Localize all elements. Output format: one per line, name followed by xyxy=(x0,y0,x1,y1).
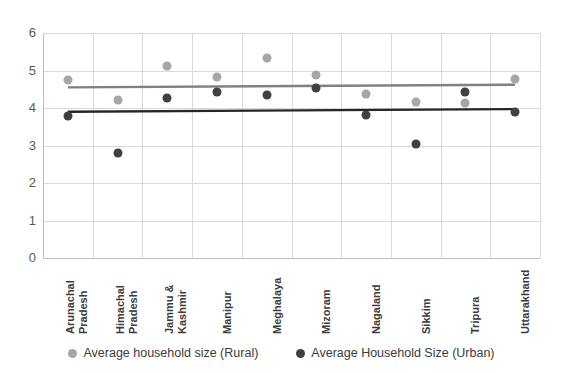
trendline xyxy=(68,85,515,88)
plot-area xyxy=(43,33,540,258)
data-point xyxy=(63,111,72,120)
x-tick-label: Mizoram xyxy=(320,289,333,334)
data-point xyxy=(511,108,520,117)
x-tick-label: Tripura xyxy=(469,297,482,334)
data-point xyxy=(262,54,271,63)
chart-legend: Average household size (Rural)Average Ho… xyxy=(0,346,563,360)
data-point xyxy=(411,140,420,149)
data-point xyxy=(461,99,470,108)
data-point xyxy=(163,93,172,102)
x-tick-label: Jammu & xyxy=(163,284,176,334)
data-point xyxy=(312,84,321,93)
x-tick-label: Himachal xyxy=(114,285,127,334)
legend-item[interactable]: Average household size (Rural) xyxy=(68,346,258,360)
x-tick-label: Meghalaya xyxy=(271,278,284,334)
data-point xyxy=(113,96,122,105)
legend-marker-icon xyxy=(296,349,305,358)
plot-right-border xyxy=(540,33,541,258)
x-tick-label: Sikkim xyxy=(420,299,433,334)
x-tick-label: Kashmir xyxy=(176,290,189,334)
data-point xyxy=(63,75,72,84)
legend-marker-icon xyxy=(68,349,77,358)
y-tick-label: 1 xyxy=(4,214,36,227)
x-tick-label: Arunachal xyxy=(64,280,77,334)
data-point xyxy=(163,62,172,71)
trendline xyxy=(68,109,515,112)
x-tick-label: Pradesh xyxy=(127,291,140,334)
y-tick-label: 5 xyxy=(4,64,36,77)
scatter-chart: 0123456 ArunachalPradeshHimachalPradeshJ… xyxy=(0,0,563,373)
x-axis-labels: ArunachalPradeshHimachalPradeshJammu &Ka… xyxy=(43,258,540,338)
data-point xyxy=(212,72,221,81)
trendlines xyxy=(43,33,540,258)
x-tick-label: Pradesh xyxy=(77,291,90,334)
data-point xyxy=(411,98,420,107)
legend-label: Average Household Size (Urban) xyxy=(311,346,494,360)
data-point xyxy=(511,75,520,84)
x-tick-label: Uttarakhand xyxy=(519,270,532,334)
data-point xyxy=(461,87,470,96)
x-tick-label: Manipur xyxy=(221,291,234,334)
y-tick-label: 6 xyxy=(4,26,36,39)
legend-item[interactable]: Average Household Size (Urban) xyxy=(296,346,494,360)
data-point xyxy=(362,110,371,119)
y-tick-label: 3 xyxy=(4,139,36,152)
y-axis: 0123456 xyxy=(0,0,36,373)
y-tick-label: 0 xyxy=(4,251,36,264)
legend-label: Average household size (Rural) xyxy=(83,346,258,360)
y-axis-line xyxy=(43,33,44,258)
y-tick-label: 2 xyxy=(4,176,36,189)
data-point xyxy=(312,71,321,80)
x-tick-label: Nagaland xyxy=(370,284,383,334)
y-tick-label: 4 xyxy=(4,101,36,114)
data-point xyxy=(212,87,221,96)
data-point xyxy=(113,149,122,158)
data-point xyxy=(262,90,271,99)
data-point xyxy=(362,89,371,98)
